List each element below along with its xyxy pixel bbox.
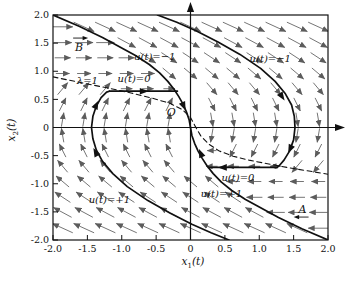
plot-label: O — [167, 106, 176, 119]
y-tick-label: -0.5 — [31, 150, 49, 161]
phase-plot-canvas: -2.0-1.5-1.0-0.500.51.01.52.02.01.51.00.… — [0, 0, 346, 282]
x-tick-label: 0.5 — [217, 243, 232, 254]
x-tick-label: -0.5 — [147, 243, 165, 254]
plot-label: λ=1 — [76, 75, 98, 86]
phase-portrait-figure: -2.0-1.5-1.0-0.500.51.01.52.02.01.51.00.… — [0, 0, 346, 282]
y-tick-label: 1.5 — [34, 37, 49, 48]
y-tick-label: 0.5 — [34, 94, 49, 105]
x-tick-label: 2.0 — [320, 243, 335, 254]
plot-label: u(t)=−1 — [250, 53, 291, 64]
x-tick-label: 1.5 — [286, 243, 301, 254]
y-tick-label: 1.0 — [34, 65, 49, 76]
plot-label: u(t)=0 — [221, 172, 255, 183]
y-tick-label: 0 — [43, 122, 49, 133]
x-tick-label: 0 — [187, 243, 193, 254]
y-tick-label: 2.0 — [34, 9, 49, 20]
y-tick-label: -1.0 — [31, 178, 49, 189]
plot-label: u(t)=−1 — [134, 51, 175, 62]
plot-label: u(t)=0 — [118, 73, 152, 84]
plot-label: u(t)=+1 — [201, 188, 242, 199]
y-tick-label: -1.5 — [31, 206, 49, 217]
plot-label: A — [298, 203, 307, 216]
x-tick-label: 1.0 — [252, 243, 267, 254]
plot-label: B — [74, 41, 83, 54]
plot-label: u(t)=+1 — [89, 194, 130, 205]
x-tick-label: -1.0 — [113, 243, 131, 254]
y-tick-label: -2.0 — [31, 234, 49, 245]
x-tick-label: -1.5 — [78, 243, 96, 254]
